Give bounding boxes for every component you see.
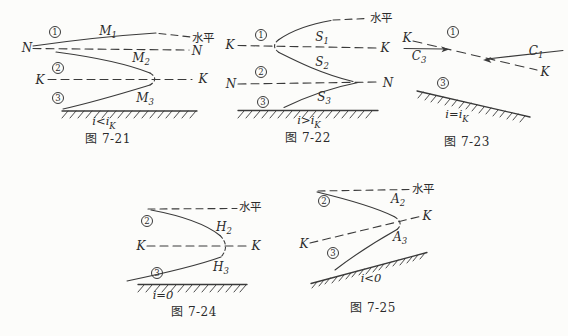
zone-badge-f23-3: 3 <box>437 77 449 89</box>
zone-badge-f21-3: 3 <box>52 92 64 104</box>
zone-badge-f25-2: 2 <box>318 195 330 207</box>
label-s1: S1 <box>315 31 329 43</box>
zone-badge-f21-2: 2 <box>52 62 64 74</box>
f23-c3-line <box>404 49 444 50</box>
caption-f25: 图 7-25 <box>350 302 396 314</box>
condition-f24: i=0 <box>153 290 174 302</box>
caption-f24: 图 7-24 <box>171 306 217 318</box>
label-horizontal-f24: 水平 <box>239 202 261 214</box>
condition-f22: i>iK <box>297 115 320 127</box>
label-k-right-f21: K <box>199 73 208 85</box>
condition-f21: i<iK <box>92 116 115 128</box>
label-h2: H2 <box>216 221 232 233</box>
label-s3: S3 <box>317 91 331 103</box>
label-k-right-f24: K <box>252 240 261 252</box>
f24-h2-curve <box>151 210 220 236</box>
label-k-right-f22: K <box>381 42 390 54</box>
label-m2: M2 <box>132 52 150 64</box>
caption-f21: 图 7-21 <box>85 133 131 145</box>
f21-bed-hatching <box>62 111 196 118</box>
diagram-canvas: 1 2 3 M1 M2 M3 水平 N N K K i<iK 图 7-21 1 … <box>0 0 568 336</box>
f22-k-line-dashed <box>238 46 376 49</box>
label-k-right-f25: K <box>423 210 432 222</box>
label-horizontal-f22: 水平 <box>370 13 392 25</box>
f21-m1-horizontal-dashed <box>159 34 191 38</box>
label-k-left-f25: K <box>300 238 309 250</box>
label-k-left-f21: K <box>36 74 45 86</box>
label-m1: M1 <box>99 25 117 37</box>
zone-badge-f21-1: 1 <box>49 26 61 38</box>
f22-n-line-dashed <box>238 82 379 84</box>
label-h3: H3 <box>213 261 229 273</box>
zone-badge-f24-2: 2 <box>141 215 153 227</box>
label-k-top-left-f23: K <box>403 32 412 44</box>
label-a3: A3 <box>393 231 407 243</box>
label-s2: S2 <box>315 56 329 68</box>
label-n-right-f21: N <box>192 45 203 57</box>
label-n-left-f22: N <box>226 78 237 90</box>
zone-badge-f23-1: 1 <box>447 26 459 38</box>
label-horizontal-f25: 水平 <box>412 184 434 196</box>
f21-n-line-dashed <box>33 49 189 51</box>
zone-badge-f25-3: 3 <box>327 247 339 259</box>
f23-bed-hatching <box>418 92 525 122</box>
zone-badge-f22-1: 1 <box>255 29 267 41</box>
label-a2: A2 <box>391 193 405 205</box>
zone-badge-f24-3: 3 <box>151 267 163 279</box>
f24-horizontal-dashed <box>148 209 237 210</box>
label-k-bottom-right-f23: K <box>541 66 550 78</box>
f25-horizontal-dashed <box>318 190 409 192</box>
condition-f23: i=iK <box>445 109 468 121</box>
zone-badge-f22-3: 3 <box>257 96 269 108</box>
strokes-layer <box>0 0 568 336</box>
f25-vertex-arc-dashed <box>394 217 400 230</box>
f22-s1-horizontal-dashed <box>333 19 367 21</box>
fig-7-21-strokes <box>33 33 197 118</box>
label-n-right-f22: N <box>383 77 394 89</box>
label-c3: C3 <box>412 50 427 62</box>
label-m3: M3 <box>136 92 154 104</box>
label-n-left-f21: N <box>22 42 33 54</box>
label-k-left-f22: K <box>226 39 235 51</box>
caption-f23: 图 7-23 <box>444 136 490 148</box>
zone-badge-f22-2: 2 <box>255 66 267 78</box>
condition-f25: i<0 <box>361 273 382 285</box>
f24-h3-curve <box>127 257 221 281</box>
f23-bed-line <box>417 91 530 117</box>
caption-f22: 图 7-22 <box>285 132 331 144</box>
f23-c1-arrowhead <box>483 57 492 63</box>
f23-c1-line <box>487 51 563 60</box>
label-k-left-f24: K <box>137 240 146 252</box>
f25-a3-curve <box>335 230 397 271</box>
label-c1: C1 <box>529 45 544 57</box>
